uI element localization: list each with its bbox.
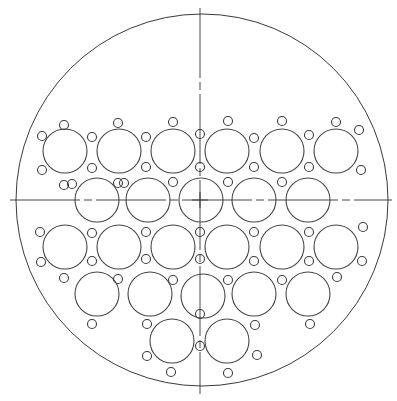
small-bolt-hole [142, 255, 151, 264]
small-bolt-hole [169, 178, 178, 187]
small-bolt-hole [142, 133, 151, 142]
large-tube-hole [43, 225, 87, 269]
small-bolt-hole [251, 321, 260, 330]
small-bolt-hole [142, 163, 151, 172]
tube-sheet-drawing [0, 0, 397, 401]
small-bolt-hole [114, 119, 123, 128]
small-bolt-hole [143, 320, 152, 329]
small-bolt-hole [60, 274, 69, 283]
small-bolt-hole [88, 320, 97, 329]
drawing-canvas [0, 0, 397, 401]
center-cross-mark [192, 192, 208, 208]
small-bolt-hole [88, 133, 97, 142]
small-bolt-hole [143, 352, 152, 361]
small-bolt-hole [88, 229, 97, 238]
large-tube-hole [260, 225, 304, 269]
large-tube-hole [205, 319, 249, 363]
small-bolt-hole [305, 163, 314, 172]
small-bolt-hole [167, 368, 176, 377]
small-bolt-hole [88, 257, 97, 266]
small-bolt-hole [357, 166, 366, 175]
large-tube-hole [205, 129, 249, 173]
small-bolt-hole [250, 228, 259, 237]
large-tube-hole [151, 225, 195, 269]
small-bolt-hole [358, 257, 367, 266]
small-bolt-hole [278, 276, 287, 285]
small-bolt-hole [305, 228, 314, 237]
large-tube-hole [232, 272, 276, 316]
large-tube-hole [97, 129, 141, 173]
large-tube-hole [97, 225, 141, 269]
large-tube-hole [314, 129, 358, 173]
small-bolt-hole [333, 273, 342, 282]
small-bolt-hole [224, 117, 233, 126]
small-bolt-hole [278, 178, 287, 187]
small-bolt-hole [224, 178, 233, 187]
small-bolt-hole [305, 257, 314, 266]
small-bolt-hole [250, 134, 259, 143]
small-bolt-hole [253, 351, 262, 360]
small-bolt-hole [36, 228, 45, 237]
large-tube-hole [128, 272, 172, 316]
small-bolt-hole [305, 131, 314, 140]
small-bolt-hole [278, 117, 287, 126]
small-bolt-hole [224, 369, 233, 378]
small-bolt-hole [37, 258, 46, 267]
large-tube-hole [151, 129, 195, 173]
small-bolt-hole [38, 132, 47, 141]
small-bolt-hole [38, 166, 47, 175]
small-bolt-hole [250, 163, 259, 172]
small-bolt-hole [355, 126, 364, 135]
small-holes-group [36, 117, 368, 378]
small-bolt-hole [359, 223, 368, 232]
large-tube-hole [314, 225, 358, 269]
small-bolt-hole [60, 121, 69, 130]
small-bolt-hole [120, 179, 129, 188]
small-bolt-hole [332, 118, 341, 127]
small-bolt-hole [306, 320, 315, 329]
large-tube-hole [43, 129, 87, 173]
large-tube-hole [205, 225, 249, 269]
large-tube-hole [150, 319, 194, 363]
large-tube-hole [286, 272, 330, 316]
small-bolt-hole [169, 276, 178, 285]
small-bolt-hole [142, 228, 151, 237]
large-tube-hole [260, 129, 304, 173]
small-bolt-hole [169, 118, 178, 127]
large-tube-hole [75, 272, 119, 316]
small-bolt-hole [224, 276, 233, 285]
small-bolt-hole [114, 275, 123, 284]
small-bolt-hole [250, 257, 259, 266]
small-bolt-hole [88, 164, 97, 173]
